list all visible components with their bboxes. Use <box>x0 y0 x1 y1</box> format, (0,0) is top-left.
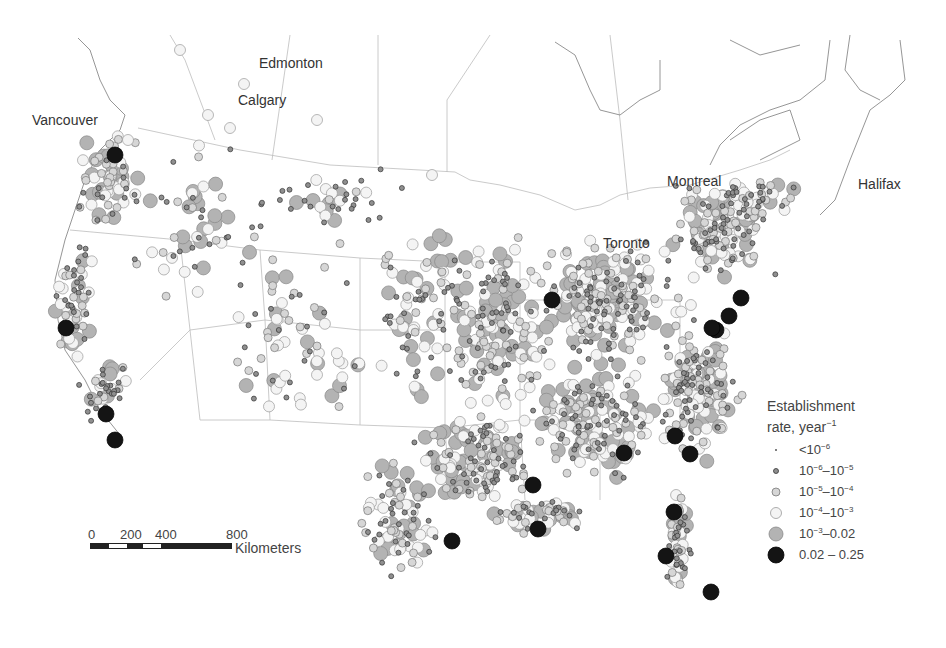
data-point <box>122 195 127 200</box>
data-point <box>478 428 483 433</box>
data-point <box>71 310 76 315</box>
data-point <box>396 522 401 527</box>
data-point <box>586 357 591 362</box>
data-point <box>710 358 715 363</box>
data-point <box>533 372 541 380</box>
data-point <box>221 210 235 224</box>
data-point <box>666 258 671 263</box>
data-point <box>79 322 87 330</box>
data-point <box>681 197 689 205</box>
data-point <box>251 396 256 401</box>
data-point <box>243 245 257 259</box>
data-point <box>715 381 720 386</box>
data-point <box>604 279 609 284</box>
data-point <box>687 398 692 403</box>
data-point <box>170 234 178 242</box>
data-point <box>589 402 594 407</box>
data-point <box>476 443 481 448</box>
data-point <box>380 560 385 565</box>
data-point <box>428 451 433 456</box>
data-point <box>91 157 99 165</box>
data-point <box>721 246 726 251</box>
data-point <box>604 393 609 398</box>
data-point <box>682 566 687 571</box>
data-point <box>731 243 736 248</box>
data-points <box>48 45 800 601</box>
data-point <box>498 385 506 393</box>
data-point <box>767 182 775 190</box>
data-point <box>704 320 720 336</box>
data-point <box>375 459 389 473</box>
data-point <box>730 379 735 384</box>
data-point <box>443 344 451 352</box>
data-point <box>563 469 571 477</box>
data-point <box>389 459 397 467</box>
data-point <box>369 201 374 206</box>
data-point <box>121 164 126 169</box>
data-point <box>476 329 484 337</box>
data-point <box>594 267 602 275</box>
data-point <box>712 225 717 230</box>
data-point <box>279 270 293 284</box>
data-point <box>580 394 588 402</box>
data-point <box>198 181 209 192</box>
data-point <box>88 394 93 399</box>
data-point <box>619 282 624 287</box>
data-point <box>473 459 478 464</box>
data-point <box>549 401 557 409</box>
data-point <box>705 387 710 392</box>
data-point <box>570 272 578 280</box>
data-point <box>412 276 423 287</box>
data-point <box>477 361 485 369</box>
data-point <box>71 273 76 278</box>
data-point <box>704 209 712 217</box>
data-point <box>539 501 544 506</box>
legend-symbol-icon <box>767 524 789 544</box>
data-point <box>607 346 612 351</box>
legend-class: 10−5–10−4 <box>767 482 937 502</box>
data-point <box>482 481 487 486</box>
data-point <box>400 345 405 350</box>
data-point <box>69 303 74 308</box>
data-point <box>635 450 640 455</box>
data-point <box>517 515 522 520</box>
data-point <box>690 227 698 235</box>
data-point <box>280 370 291 381</box>
data-point <box>677 548 682 553</box>
data-point <box>585 292 590 297</box>
data-point <box>79 285 84 290</box>
data-point <box>377 215 382 220</box>
data-point <box>674 294 682 302</box>
data-point <box>358 519 366 527</box>
data-point <box>618 298 623 303</box>
data-point <box>515 389 526 400</box>
data-point <box>530 521 546 537</box>
data-point <box>463 271 471 279</box>
data-point <box>529 511 534 516</box>
data-point <box>143 194 157 208</box>
data-point <box>689 418 694 423</box>
data-point <box>582 409 590 417</box>
data-point <box>330 204 335 209</box>
data-point <box>543 407 551 415</box>
data-point <box>406 533 411 538</box>
data-point <box>571 345 576 350</box>
data-point <box>70 293 78 301</box>
data-point <box>431 367 445 381</box>
data-point <box>409 381 420 392</box>
data-point <box>271 344 279 352</box>
data-point <box>430 294 438 302</box>
data-point <box>159 249 167 257</box>
data-point <box>467 339 472 344</box>
data-point <box>377 473 382 478</box>
data-point <box>158 264 169 275</box>
data-point <box>120 376 131 387</box>
scale-bar-segment <box>91 544 109 548</box>
data-point <box>452 258 457 263</box>
data-point <box>240 260 245 265</box>
data-point <box>492 278 497 283</box>
data-point <box>250 225 255 230</box>
data-point <box>637 273 642 278</box>
data-point <box>344 192 349 197</box>
legend-class: 10−4–10−3 <box>767 503 937 523</box>
